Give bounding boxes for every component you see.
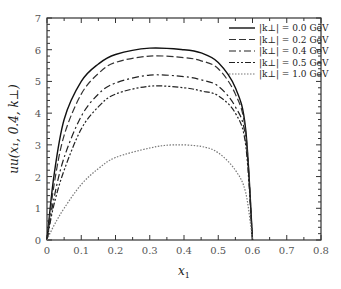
series-layer (47, 48, 253, 240)
x-tick-label: 0.3 (142, 245, 158, 256)
legend-label: |k⊥| = 1.0 GeV (259, 69, 329, 80)
series-line-3 (47, 86, 253, 240)
y-tick-label: 7 (35, 13, 41, 24)
x-tick-label: 0.4 (176, 245, 192, 256)
x-tick-label: 0.6 (245, 245, 261, 256)
legend-label: |k⊥| = 0.4 GeV (259, 46, 329, 57)
y-tick-label: 0 (35, 235, 41, 246)
series-line-0 (47, 48, 253, 240)
y-tick-label: 4 (35, 108, 41, 119)
x-tick-label: 0.8 (313, 245, 329, 256)
x-tick-label: 0.7 (279, 245, 295, 256)
line-chart: 00.10.20.30.40.50.60.70.801234567 |k⊥| =… (0, 0, 341, 289)
legend-label: |k⊥| = 0.5 GeV (259, 58, 329, 69)
x-tick-label: 0.1 (73, 245, 89, 256)
y-tick-label: 2 (35, 172, 41, 183)
x-tick-label: 0 (44, 245, 50, 256)
y-axis-label: uu(x₁, 0.4, k⊥) (7, 84, 21, 174)
legend-label: |k⊥| = 0.0 GeV (259, 23, 329, 34)
legend-label: |k⊥| = 0.2 GeV (259, 35, 329, 46)
legend: |k⊥| = 0.0 GeV|k⊥| = 0.2 GeV|k⊥| = 0.4 G… (229, 23, 329, 80)
series-line-4 (47, 145, 253, 240)
y-tick-label: 5 (35, 76, 41, 87)
y-tick-label: 6 (35, 45, 41, 56)
x-axis-label-sub: 1 (185, 271, 190, 280)
x-tick-label: 0.5 (210, 245, 226, 256)
y-tick-label: 1 (35, 203, 41, 214)
x-tick-label: 0.2 (108, 245, 124, 256)
x-axis-label: x1 (178, 264, 190, 280)
y-tick-label: 3 (35, 140, 41, 151)
